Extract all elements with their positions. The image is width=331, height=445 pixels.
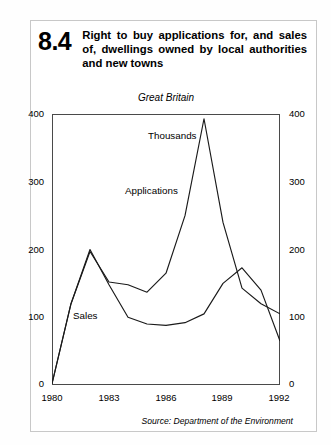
x-tick-label-1986: 1986 [146,392,186,403]
y-tick-label-right-200: 200 [289,244,319,255]
plot-svg [52,114,280,385]
page-title: Right to buy applications for, and sales… [82,28,307,71]
x-tick-label-1980: 1980 [32,392,72,403]
y-tick-label-left-0: 0 [14,378,44,389]
y-tick-label-left-200: 200 [14,244,44,255]
y-tick-label-right-400: 400 [289,108,319,119]
y-tick-label-left-100: 100 [14,311,44,322]
y-tick-marks [52,115,280,385]
series-label-sales: Sales [73,310,98,321]
source-attribution: Source: Department of the Environment [142,416,293,426]
x-tick-label-1989: 1989 [202,392,242,403]
chart-page: 8.4 Right to buy applications for, and s… [0,0,331,445]
y-tick-label-left-400: 400 [14,108,44,119]
series-label-applications: Applications [125,185,178,196]
y-tick-label-right-300: 300 [289,176,319,187]
x-tick-label-1992: 1992 [259,392,299,403]
x-tick-label-1983: 1983 [89,392,129,403]
series-line-applications [52,119,280,384]
chart-header: 8.4 Right to buy applications for, and s… [32,22,315,88]
y-tick-label-left-300: 300 [14,176,44,187]
unit-label: Thousands [148,130,196,141]
chart-subtitle: Great Britain [52,92,280,103]
chart-number: 8.4 [38,28,71,54]
y-tick-label-right-100: 100 [289,311,319,322]
plot-area: Thousands Applications Sales [52,114,280,385]
y-tick-label-right-0: 0 [289,378,319,389]
